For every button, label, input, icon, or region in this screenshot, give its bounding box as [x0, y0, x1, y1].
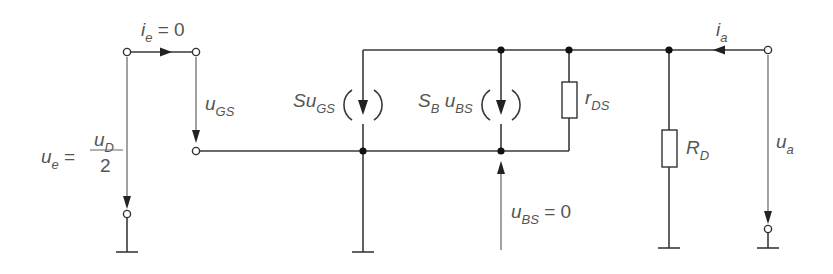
- input-voltage-numerator: uD: [94, 129, 114, 155]
- gate-source-voltage-label: uGS: [205, 93, 235, 119]
- junction-node: [497, 147, 504, 154]
- output-terminal-bottom: [764, 225, 771, 232]
- output-terminal-top: [764, 46, 771, 53]
- resistor-icon: [662, 130, 677, 167]
- transconductance-source-label: SuGS: [293, 90, 335, 116]
- down-arrow-icon: [496, 100, 506, 115]
- output-current-arrow-icon: [713, 46, 725, 55]
- output-voltage-arrow-icon: [764, 211, 772, 224]
- output-voltage-label: ua: [776, 131, 794, 157]
- gate-terminal: [192, 147, 199, 154]
- input-terminal-bottom: [123, 210, 130, 217]
- junction-node: [665, 46, 672, 53]
- bulk-transconductance-source: [482, 50, 520, 151]
- source1-right-arc: [374, 90, 382, 120]
- gate-source-voltage-arrow-icon: [192, 130, 200, 143]
- input-current-arrow-icon: [160, 48, 172, 57]
- source2-left-arc: [482, 90, 490, 120]
- input-voltage-arrow-icon: [123, 196, 131, 209]
- source1-left-arc: [344, 90, 352, 120]
- rds-resistor: [562, 50, 577, 151]
- bulk-source-voltage-arrow: [497, 161, 505, 250]
- junction-node: [565, 46, 572, 53]
- input-section: [116, 48, 200, 253]
- output-current-label: ia: [716, 19, 727, 45]
- source2-right-arc: [512, 90, 520, 120]
- input-voltage-label: ue =: [41, 146, 75, 172]
- input-terminal-top-left: [123, 48, 130, 55]
- junction-node: [359, 147, 366, 154]
- circuit-diagram: ie = 0 ue = uD 2 uGS SuGS SB uBS rDS RD …: [0, 0, 833, 274]
- output-section: [713, 46, 779, 249]
- junction-nodes: [359, 46, 672, 154]
- rd-label: RD: [686, 137, 709, 163]
- rd-resistor: [658, 50, 680, 248]
- input-current-label: ie = 0: [141, 19, 185, 45]
- input-terminal-top-right: [192, 48, 199, 55]
- rds-label: rDS: [585, 87, 610, 113]
- resistor-icon: [562, 82, 577, 118]
- up-arrow-icon: [497, 161, 505, 174]
- down-arrow-icon: [358, 100, 368, 115]
- bulk-transconductance-source-label: SB uBS: [418, 90, 473, 116]
- input-voltage-denominator: 2: [100, 155, 111, 176]
- junction-node: [497, 46, 504, 53]
- bulk-source-voltage-label: uBS = 0: [511, 201, 571, 227]
